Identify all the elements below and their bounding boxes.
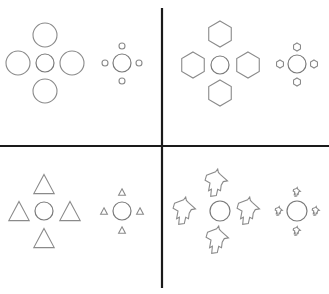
triangles-large-inducer-group xyxy=(9,174,80,247)
circle-inducer xyxy=(136,60,142,66)
hexagons-large-inducer-group xyxy=(182,21,260,106)
leaf-inducer xyxy=(237,197,259,224)
hexagon-inducer xyxy=(294,78,301,86)
circle-inducer xyxy=(33,23,57,47)
triangle-inducer xyxy=(34,174,54,193)
triangle-inducer xyxy=(34,228,54,247)
circle-inducer xyxy=(119,43,125,49)
hexagon-inducer xyxy=(209,80,232,106)
target-circle xyxy=(113,202,131,220)
quadrant-irregular-leaves xyxy=(173,169,319,253)
triangle-inducer xyxy=(119,189,126,195)
circle-inducer xyxy=(6,51,30,75)
figure-canvas xyxy=(0,0,329,294)
quadrant-circles xyxy=(6,23,142,103)
circle-inducer xyxy=(119,78,125,84)
circles-large-inducer-group xyxy=(6,23,84,103)
hexagon-inducer xyxy=(182,52,205,78)
leaf-inducer xyxy=(275,207,282,216)
leaf-inducer xyxy=(293,188,300,197)
triangle-inducer xyxy=(60,201,80,220)
circle-inducer xyxy=(102,60,108,66)
ebbinghaus-figure xyxy=(0,0,329,294)
hexagon-inducer xyxy=(237,52,260,78)
target-circle xyxy=(113,54,131,72)
target-circle xyxy=(35,202,53,220)
irregular-leaves-small-inducer-group xyxy=(275,188,319,236)
triangle-inducer xyxy=(101,208,108,214)
leaf-inducer xyxy=(205,169,227,196)
target-circle xyxy=(287,201,307,221)
triangle-inducer xyxy=(137,208,144,214)
circle-inducer xyxy=(60,51,84,75)
triangles-small-inducer-group xyxy=(101,189,144,233)
leaf-inducer xyxy=(173,197,195,224)
quadrant-dividers xyxy=(0,8,329,288)
hexagons-small-inducer-group xyxy=(277,43,318,86)
hexagon-inducer xyxy=(209,21,232,47)
target-circle xyxy=(210,201,230,221)
leaf-inducer xyxy=(293,227,300,236)
leaf-inducer xyxy=(206,226,228,253)
circles-small-inducer-group xyxy=(102,43,142,84)
leaf-inducer xyxy=(312,207,319,216)
target-circle xyxy=(211,56,229,74)
hexagon-inducer xyxy=(311,60,318,68)
quadrant-triangles xyxy=(9,174,144,247)
triangle-inducer xyxy=(119,227,126,233)
circle-inducer xyxy=(33,79,57,103)
irregular-leaves-large-inducer-group xyxy=(173,169,259,253)
quadrant-hexagons xyxy=(182,21,318,106)
hexagon-inducer xyxy=(294,43,301,51)
hexagon-inducer xyxy=(277,60,284,68)
target-circle xyxy=(36,54,54,72)
triangle-inducer xyxy=(9,201,29,220)
target-circle xyxy=(288,55,306,73)
